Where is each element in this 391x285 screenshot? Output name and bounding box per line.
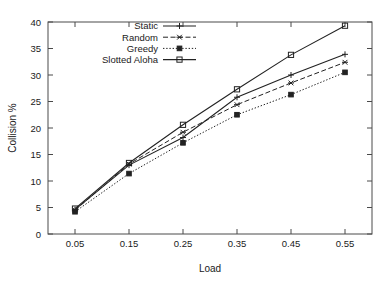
y-tick-label: 25 bbox=[30, 96, 41, 107]
series-line bbox=[75, 62, 345, 210]
y-tick-label: 20 bbox=[30, 123, 41, 134]
filled-square-marker-icon bbox=[127, 171, 132, 176]
cross-marker-icon bbox=[288, 81, 294, 86]
cross-marker-icon bbox=[342, 60, 348, 65]
legend-label: Random bbox=[122, 32, 158, 43]
filled-square-marker-icon bbox=[73, 209, 78, 214]
filled-square-marker-icon bbox=[343, 70, 348, 75]
y-tick-label: 35 bbox=[30, 43, 41, 54]
series-greedy bbox=[73, 70, 348, 214]
legend-entry-greedy[interactable]: Greedy bbox=[127, 43, 196, 54]
legend-label: Static bbox=[134, 20, 158, 31]
series-line bbox=[75, 72, 345, 211]
y-tick-label: 5 bbox=[36, 202, 41, 213]
cross-marker-icon bbox=[177, 35, 183, 40]
y-axis-ticks: 0510152025303540 bbox=[30, 17, 372, 240]
x-tick-label: 0.15 bbox=[120, 238, 139, 249]
x-tick-label: 0.05 bbox=[66, 238, 85, 249]
series-static bbox=[72, 51, 348, 212]
x-tick-label: 0.25 bbox=[174, 238, 193, 249]
legend-entry-slotted-aloha[interactable]: Slotted Aloha bbox=[102, 54, 196, 65]
y-tick-label: 0 bbox=[36, 229, 41, 240]
cross-marker-icon bbox=[234, 102, 240, 107]
y-tick-label: 30 bbox=[30, 70, 41, 81]
x-tick-label: 0.55 bbox=[336, 238, 355, 249]
plot-frame bbox=[48, 22, 372, 234]
collision-vs-load-chart: 0510152025303540 0.050.150.250.350.450.5… bbox=[0, 0, 391, 285]
x-axis-title: Load bbox=[199, 263, 221, 274]
plus-marker-icon bbox=[177, 23, 183, 29]
filled-square-marker-icon bbox=[235, 112, 240, 117]
chart-canvas: 0510152025303540 0.050.150.250.350.450.5… bbox=[0, 0, 391, 285]
plus-marker-icon bbox=[342, 51, 348, 57]
filled-square-marker-icon bbox=[181, 141, 186, 146]
data-series-group bbox=[72, 23, 348, 214]
y-tick-label: 10 bbox=[30, 176, 41, 187]
filled-square-marker-icon bbox=[177, 46, 182, 51]
cross-marker-icon bbox=[180, 130, 186, 135]
y-tick-label: 15 bbox=[30, 149, 41, 160]
series-random bbox=[72, 60, 348, 213]
filled-square-marker-icon bbox=[289, 92, 294, 97]
chart-legend: StaticRandomGreedySlotted Aloha bbox=[102, 20, 196, 65]
x-tick-label: 0.45 bbox=[282, 238, 301, 249]
legend-label: Slotted Aloha bbox=[102, 54, 159, 65]
plus-marker-icon bbox=[288, 72, 294, 78]
legend-label: Greedy bbox=[127, 43, 158, 54]
y-axis-title: Collision % bbox=[7, 103, 18, 153]
y-tick-label: 40 bbox=[30, 17, 41, 28]
x-tick-label: 0.35 bbox=[228, 238, 247, 249]
legend-entry-random[interactable]: Random bbox=[122, 32, 196, 43]
